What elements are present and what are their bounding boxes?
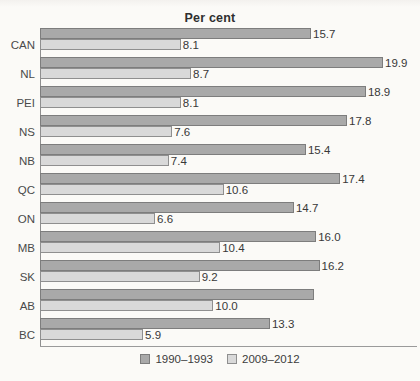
bar-row: 13.3	[40, 318, 417, 329]
value-label: 17.4	[339, 173, 364, 185]
bar-dark: 14.7	[40, 202, 294, 213]
bar-row: 5.9	[40, 329, 417, 340]
legend-swatch-light-icon	[227, 354, 237, 364]
bar-row	[40, 289, 417, 300]
bar-light: 10.0	[40, 300, 213, 311]
bar-row: 15.4	[40, 144, 417, 155]
bar-group-bc: BC13.35.9	[0, 318, 420, 340]
category-label: PEI	[0, 97, 40, 108]
bar-dark: 16.2	[40, 260, 320, 271]
plot-groups: CAN15.78.1NL19.98.7PEI18.98.1NS17.87.6NB…	[0, 28, 420, 340]
value-label: 17.8	[346, 115, 371, 127]
bar-pair: 10.0	[40, 289, 417, 311]
bar-light: 9.2	[40, 271, 200, 282]
bar-light: 8.7	[40, 68, 191, 79]
category-label: AB	[0, 300, 40, 311]
plot-area: CAN15.78.1NL19.98.7PEI18.98.1NS17.87.6NB…	[0, 28, 420, 347]
value-label: 15.4	[305, 144, 330, 156]
value-label: 16.2	[319, 260, 344, 272]
bar-row: 10.0	[40, 300, 417, 311]
bar-pair: 13.35.9	[40, 318, 417, 340]
bar-row: 19.9	[40, 57, 417, 68]
bar-row: 18.9	[40, 86, 417, 97]
bar-row: 7.4	[40, 155, 417, 166]
bar-dark	[40, 289, 314, 300]
value-label: 15.7	[310, 28, 335, 40]
bar-light: 10.6	[40, 184, 224, 195]
value-label: 6.6	[154, 213, 173, 225]
bar-group-ab: AB10.0	[0, 289, 420, 311]
bar-dark: 15.4	[40, 144, 306, 155]
bar-pair: 15.47.4	[40, 144, 417, 166]
bar-row: 14.7	[40, 202, 417, 213]
bar-row: 17.8	[40, 115, 417, 126]
bar-pair: 15.78.1	[40, 28, 417, 50]
legend-label: 1990–1993	[155, 353, 213, 365]
bar-row: 16.2	[40, 260, 417, 271]
bar-row: 9.2	[40, 271, 417, 282]
x-axis-baseline	[40, 346, 417, 347]
bar-row: 17.4	[40, 173, 417, 184]
bar-dark: 18.9	[40, 86, 366, 97]
bar-light: 8.1	[40, 97, 181, 108]
bar-pair: 16.010.4	[40, 231, 417, 253]
bar-group-ns: NS17.87.6	[0, 115, 420, 137]
bar-row: 16.0	[40, 231, 417, 242]
bar-light: 5.9	[40, 329, 143, 340]
category-label: CAN	[0, 39, 40, 50]
legend-label: 2009–2012	[242, 353, 300, 365]
bar-group-can: CAN15.78.1	[0, 28, 420, 50]
value-label: 9.2	[199, 271, 218, 283]
value-label: 7.4	[168, 155, 187, 167]
chart-title: Per cent	[0, 11, 420, 25]
value-label: 14.7	[293, 202, 318, 214]
bar-pair: 16.29.2	[40, 260, 417, 282]
category-label: MB	[0, 242, 40, 253]
bar-group-mb: MB16.010.4	[0, 231, 420, 253]
bar-row: 10.4	[40, 242, 417, 253]
bar-row: 10.6	[40, 184, 417, 195]
value-label: 13.3	[269, 318, 294, 330]
category-label: NS	[0, 126, 40, 137]
legend-swatch-dark-icon	[140, 354, 150, 364]
value-label: 8.1	[180, 97, 199, 109]
value-label: 10.6	[223, 184, 248, 196]
category-label: BC	[0, 329, 40, 340]
category-label: SK	[0, 271, 40, 282]
legend-item-2009-2012: 2009–2012	[227, 353, 300, 365]
bar-chart-figure: Per cent CAN15.78.1NL19.98.7PEI18.98.1NS…	[0, 0, 420, 381]
bar-row: 8.7	[40, 68, 417, 79]
value-label: 8.1	[180, 39, 199, 51]
bar-light: 10.4	[40, 242, 220, 253]
bar-row: 8.1	[40, 39, 417, 50]
bar-group-on: ON14.76.6	[0, 202, 420, 224]
bar-row: 7.6	[40, 126, 417, 137]
bar-dark: 16.0	[40, 231, 316, 242]
value-label: 10.0	[212, 300, 237, 312]
bar-dark: 15.7	[40, 28, 311, 39]
bar-group-nb: NB15.47.4	[0, 144, 420, 166]
bar-pair: 19.98.7	[40, 57, 417, 79]
value-label: 18.9	[365, 86, 390, 98]
bar-light: 6.6	[40, 213, 155, 224]
bar-row: 6.6	[40, 213, 417, 224]
bar-group-nl: NL19.98.7	[0, 57, 420, 79]
bar-group-qc: QC17.410.6	[0, 173, 420, 195]
value-label: 8.7	[190, 68, 209, 80]
category-label: NB	[0, 155, 40, 166]
value-label: 10.4	[219, 242, 244, 254]
bar-row: 8.1	[40, 97, 417, 108]
value-label: 7.6	[171, 126, 190, 138]
legend: 1990–1993 2009–2012	[0, 353, 420, 365]
category-label: ON	[0, 213, 40, 224]
bar-pair: 17.410.6	[40, 173, 417, 195]
bar-dark: 17.8	[40, 115, 347, 126]
bar-dark: 17.4	[40, 173, 340, 184]
bar-group-sk: SK16.29.2	[0, 260, 420, 282]
bar-pair: 17.87.6	[40, 115, 417, 137]
bar-light: 7.6	[40, 126, 172, 137]
category-label: NL	[0, 68, 40, 79]
bar-group-pei: PEI18.98.1	[0, 86, 420, 108]
category-label: QC	[0, 184, 40, 195]
bar-row: 15.7	[40, 28, 417, 39]
